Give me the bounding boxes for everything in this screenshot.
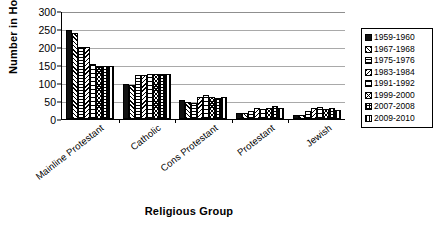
legend-swatch: [365, 92, 372, 99]
bar-group: [232, 12, 289, 119]
legend-swatch: [365, 103, 372, 110]
bar: [108, 66, 114, 119]
legend-swatch: [365, 34, 372, 41]
x-axis-category-labels: Mainline ProtestantCatholicCons Protesta…: [61, 122, 345, 184]
bar: [278, 108, 284, 119]
plot-region: 050100150200250300: [33, 12, 345, 120]
legend-label: 1999-2000: [374, 91, 415, 100]
legend-item[interactable]: 1999-2000: [365, 90, 430, 102]
legend: 1959-19601967-19681975-19761983-19841991…: [361, 28, 433, 128]
legend-swatch: [365, 69, 372, 76]
bar: [221, 97, 227, 119]
bar-chart: Number in House 050100150200250300 Mainl…: [0, 0, 442, 232]
y-tick-label: 100: [38, 79, 56, 89]
legend-item[interactable]: 1959-1960: [365, 32, 430, 44]
x-axis-label: Jewish: [303, 122, 333, 149]
legend-label: 1967-1968: [374, 45, 415, 54]
legend-label: 2009-2010: [374, 114, 415, 123]
y-tick-label: 250: [38, 25, 56, 35]
bar-group: [175, 12, 232, 119]
y-tick-label: 50: [44, 97, 56, 107]
bar: [165, 74, 171, 119]
legend-label: 2007-2008: [374, 102, 415, 111]
legend-item[interactable]: 2007-2008: [365, 101, 430, 113]
legend-swatch: [365, 57, 372, 64]
y-axis-title: Number in House: [7, 0, 25, 82]
legend-swatch: [365, 115, 372, 122]
bar-group: [62, 12, 119, 119]
legend-label: 1959-1960: [374, 33, 415, 42]
x-axis-label: Protestant: [235, 122, 277, 158]
bar-group: [119, 12, 176, 119]
x-axis-label: Catholic: [129, 122, 163, 152]
legend-swatch: [365, 46, 372, 53]
legend-item[interactable]: 1991-1992: [365, 78, 430, 90]
x-axis-label: Cons Protestant: [158, 122, 220, 174]
y-tick-label: 300: [38, 7, 56, 17]
y-axis-ticks: 050100150200250300: [33, 12, 61, 120]
legend-item[interactable]: 1983-1984: [365, 67, 430, 79]
y-tick-label: 0: [50, 115, 56, 125]
x-axis-title: Religious Group: [33, 205, 345, 217]
legend-item[interactable]: 2009-2010: [365, 113, 430, 125]
legend-swatch: [365, 80, 372, 87]
legend-label: 1983-1984: [374, 68, 415, 77]
bar-group: [288, 12, 345, 119]
y-tick-label: 200: [38, 43, 56, 53]
bars-layer: [62, 12, 345, 119]
y-tick-label: 150: [38, 61, 56, 71]
plot-area: [61, 12, 345, 120]
x-axis-label: Mainline Protestant: [34, 122, 106, 182]
legend-item[interactable]: 1967-1968: [365, 44, 430, 56]
legend-label: 1991-1992: [374, 79, 415, 88]
legend-item[interactable]: 1975-1976: [365, 55, 430, 67]
legend-label: 1975-1976: [374, 56, 415, 65]
bar: [335, 110, 341, 119]
